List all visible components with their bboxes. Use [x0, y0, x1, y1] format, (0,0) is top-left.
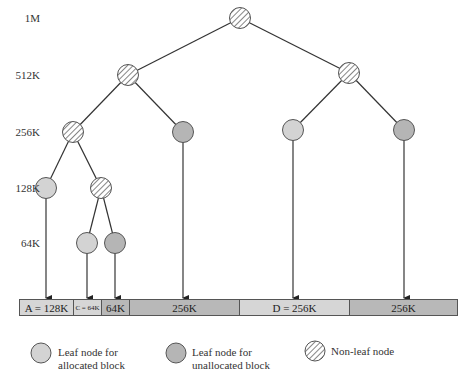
unallocated-leaf-node-icon [173, 122, 194, 143]
block-d: D = 256K [239, 299, 350, 316]
tree-edge [128, 18, 240, 75]
level-label-128k: 128K [0, 182, 40, 194]
block-free-256k-1: 256K [129, 299, 240, 316]
allocated-leaf-node-icon [77, 233, 98, 254]
non-leaf-node-icon [230, 8, 251, 29]
level-label-1m: 1M [0, 12, 40, 24]
non-leaf-node-icon [339, 63, 360, 84]
unallocated-leaf-node-icon [105, 233, 126, 254]
level-label-64k: 64K [0, 237, 40, 249]
level-label-256k: 256K [0, 126, 40, 138]
buddy-tree-diagram [0, 0, 464, 378]
legend-nonleaf-icon [305, 341, 325, 361]
allocated-leaf-node-icon [283, 120, 304, 141]
tree-edges [46, 18, 404, 243]
tree-edge [293, 73, 349, 130]
legend-nonleaf-label: Non-leaf node [331, 345, 394, 358]
tree-nodes [36, 8, 415, 254]
tree-edge [240, 18, 349, 73]
non-leaf-node-icon [118, 65, 139, 86]
tree-edge [128, 75, 183, 132]
legend-allocated-label: Leaf node for allocated block [58, 346, 125, 372]
tree-edge [73, 75, 128, 132]
block-a: A = 128K [19, 299, 74, 316]
block-c: C = 64K [73, 299, 102, 316]
legend-unallocated-icon [166, 343, 186, 363]
non-leaf-node-icon [63, 122, 84, 143]
tree-edge [349, 73, 404, 130]
non-leaf-node-icon [91, 178, 112, 199]
legend-allocated-icon [31, 343, 51, 363]
level-label-512k: 512K [0, 69, 40, 81]
block-free-64k: 64K [101, 299, 130, 316]
unallocated-leaf-node-icon [394, 120, 415, 141]
leaf-arrows [46, 140, 404, 298]
block-free-256k-2: 256K [349, 299, 458, 316]
legend-unallocated-label: Leaf node for unallocated block [192, 346, 270, 372]
